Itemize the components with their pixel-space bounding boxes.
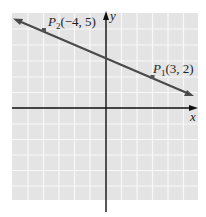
point-p1-label: P1(3, 2) <box>152 61 194 78</box>
point-p2-marker <box>42 28 46 32</box>
p2-coords: (−4, 5) <box>60 14 96 29</box>
grid-background <box>12 13 198 200</box>
y-axis-label: y <box>108 8 116 23</box>
coordinate-plane: P2(−4, 5) P1(3, 2) y x <box>0 0 206 217</box>
x-axis-label: x <box>189 109 196 124</box>
point-p2-label: P2(−4, 5) <box>47 14 96 31</box>
p2-name: P <box>47 14 56 29</box>
p1-coords: (3, 2) <box>165 61 193 76</box>
p1-name: P <box>152 61 161 76</box>
